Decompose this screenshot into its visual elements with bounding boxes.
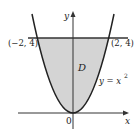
x-axis-arrow-icon xyxy=(123,111,129,116)
diagram-svg: y x 0 (−2, 4) (2, 4) D y = x 2 xyxy=(0,0,134,133)
x-axis-label: x xyxy=(125,116,130,126)
y-axis-arrow-icon xyxy=(71,11,76,17)
y-axis-label: y xyxy=(63,11,70,21)
curve-label-exponent: 2 xyxy=(124,72,128,79)
right-point-label: (2, 4) xyxy=(111,38,134,48)
origin-label: 0 xyxy=(66,116,72,126)
diagram: y x 0 (−2, 4) (2, 4) D y = x 2 xyxy=(0,0,134,133)
region-label: D xyxy=(77,62,86,73)
curve-label: y = x xyxy=(98,76,121,86)
left-point-label: (−2, 4) xyxy=(8,38,38,48)
